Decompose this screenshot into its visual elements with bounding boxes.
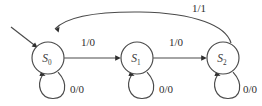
- initial-state-arrow: [11, 27, 38, 48]
- transition-s0-s0[interactable]: 0/0: [39, 72, 84, 99]
- transition-s0-s1[interactable]: 1/0: [64, 36, 121, 61]
- transition-s2-s2-label: 0/0: [243, 83, 258, 95]
- transition-s0-s1-label: 1/0: [81, 36, 96, 48]
- transition-s2-s0-label: 1/1: [192, 2, 206, 14]
- initial-arrow-path: [11, 27, 36, 46]
- transition-s1-s2-arrowhead: [201, 55, 207, 60]
- fsm-canvas: 1/1 1/0 1/0 0/0 0/0: [0, 0, 262, 106]
- transition-s0-s1-arrowhead: [115, 55, 121, 60]
- state-machine-diagram: 1/1 1/0 1/0 0/0 0/0: [0, 0, 262, 106]
- transition-s1-s1-label: 0/0: [159, 83, 174, 95]
- transition-s2-s2-path: [215, 72, 240, 98]
- transition-s1-s1[interactable]: 0/0: [128, 72, 173, 99]
- transition-s1-s2[interactable]: 1/0: [153, 36, 207, 61]
- transition-s2-s2[interactable]: 0/0: [214, 72, 257, 99]
- transition-s1-s2-label: 1/0: [169, 36, 184, 48]
- transition-s0-s0-label: 0/0: [70, 83, 85, 95]
- state-s2-subscript: 2: [223, 59, 227, 67]
- transition-s1-s1-path: [129, 72, 154, 98]
- state-node-s0[interactable]: S0: [32, 42, 64, 74]
- state-s0-subscript: 0: [48, 59, 52, 67]
- state-s1-subscript: 1: [137, 59, 141, 67]
- state-node-s1[interactable]: S1: [121, 42, 153, 74]
- transition-s0-s0-path: [40, 72, 65, 98]
- state-node-s2[interactable]: S2: [207, 42, 239, 74]
